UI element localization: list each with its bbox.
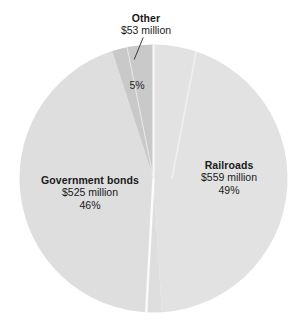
pie-label-government-bonds-value: $525 million <box>22 186 158 198</box>
pie-chart: Other $53 million 5% Railroads $559 mill… <box>0 0 308 332</box>
pie-label-government-bonds-title: Government bonds <box>22 174 158 186</box>
pie-label-railroads-title: Railroads <box>176 159 282 171</box>
pie-label-other: Other $53 million <box>86 12 206 37</box>
pie-label-government-bonds: Government bonds $525 million 46% <box>22 174 158 211</box>
pie-label-government-bonds-percent: 46% <box>22 199 158 211</box>
pie-label-other-percent-text: 5% <box>112 79 162 91</box>
pie-label-other-value: $53 million <box>86 24 206 36</box>
pie-label-other-title: Other <box>86 12 206 24</box>
pie-label-railroads-value: $559 million <box>176 171 282 183</box>
pie-label-other-percent: 5% <box>112 79 162 91</box>
pie-label-railroads-percent: 49% <box>176 184 282 196</box>
pie-label-railroads: Railroads $559 million 49% <box>176 159 282 196</box>
